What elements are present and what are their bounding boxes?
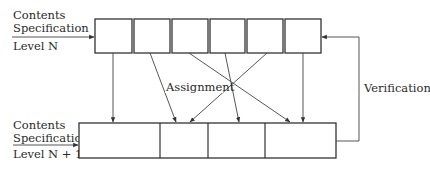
- level-n-cell-6: [285, 19, 321, 53]
- level-n-plus-1-spec-boxes: [79, 123, 336, 158]
- level-n-cell-3: [172, 19, 208, 53]
- level-n-plus-1-label: Contents Specification Level N + 1: [13, 118, 89, 161]
- level-n-plus-1-label-line2: Specification: [13, 131, 89, 145]
- level-n-cell-4: [210, 19, 245, 53]
- assignment-label: Assignment: [165, 80, 235, 94]
- level-n-label-level: Level N: [13, 39, 58, 53]
- level-n-label-line2: Specification: [13, 21, 89, 35]
- specification-diagram: Contents Specification Level N Contents …: [0, 0, 430, 173]
- level-n-cell-1: [95, 19, 132, 53]
- level-n-spec-boxes: [95, 19, 321, 53]
- verification-label: Verification: [363, 81, 430, 95]
- level-n-label-line1: Contents: [13, 8, 66, 22]
- level-n-cell-2: [134, 19, 170, 53]
- level-n-plus-1-label-level: Level N + 1: [13, 147, 82, 161]
- level-n-cell-5: [247, 19, 283, 53]
- level-n-plus-1-label-line1: Contents: [13, 118, 66, 132]
- level-n-label: Contents Specification Level N: [13, 8, 89, 53]
